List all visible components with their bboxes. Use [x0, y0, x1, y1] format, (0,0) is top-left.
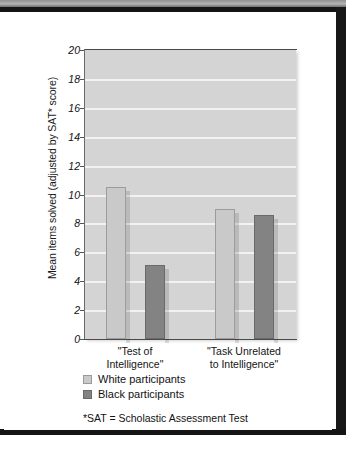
y-tick-mark — [80, 310, 84, 311]
legend-swatch-dark — [83, 390, 92, 399]
legend-item-2: Black participants — [83, 388, 185, 401]
x-label-group2: "Task Unrelated to Intelligence" — [174, 345, 314, 370]
bar-chart: Mean items solved (adjusted by SAT* scor… — [4, 12, 328, 430]
y-tick-label: 0 — [56, 333, 80, 345]
y-tick-label: 8 — [56, 217, 80, 229]
legend-label: Black participants — [98, 388, 184, 401]
bar-shadow — [165, 269, 169, 343]
scan-edge-right — [336, 7, 346, 431]
y-tick-mark — [80, 79, 84, 80]
y-tick-label: 16 — [56, 102, 80, 114]
y-tick-mark — [80, 281, 84, 282]
bar-face — [145, 265, 165, 339]
gridline — [85, 137, 296, 139]
y-tick-label: 18 — [56, 73, 80, 85]
bar-black-participants-group2 — [254, 215, 274, 339]
legend-swatch-light — [83, 375, 92, 384]
scan-edge-bottom-pad — [0, 435, 346, 449]
y-tick-mark — [80, 50, 84, 51]
bar-face — [106, 187, 126, 339]
scan-edge-top-gray — [0, 0, 346, 7]
y-axis-line — [84, 49, 85, 340]
y-tick-mark — [80, 252, 84, 253]
plot-top-border — [85, 49, 297, 50]
y-tick-label: 4 — [56, 275, 80, 287]
y-tick-label: 2 — [56, 304, 80, 316]
gridline — [85, 79, 296, 81]
bar-face — [254, 215, 274, 339]
y-tick-label: 6 — [56, 246, 80, 258]
y-tick-label: 12 — [56, 160, 80, 172]
gridline — [85, 108, 296, 110]
legend-item-1: White participants — [83, 373, 185, 386]
y-tick-mark — [80, 166, 84, 167]
y-tick-label: 10 — [56, 189, 80, 201]
y-tick-label: 20 — [56, 44, 80, 56]
y-tick-label: 14 — [56, 131, 80, 143]
bar-black-participants-group1 — [145, 265, 165, 339]
legend-label: White participants — [98, 373, 185, 386]
gridline — [85, 166, 296, 168]
figure-canvas: Mean items solved (adjusted by SAT* scor… — [4, 12, 332, 430]
y-tick-mark — [80, 137, 84, 138]
bar-shadow — [126, 191, 130, 343]
y-tick-mark — [80, 108, 84, 109]
footnote: *SAT = Scholastic Assessment Test — [83, 412, 248, 424]
y-tick-mark — [80, 195, 84, 196]
y-axis-title: Mean items solved (adjusted by SAT* scor… — [46, 48, 58, 308]
x-axis-line — [84, 339, 297, 340]
legend: White participantsBlack participants — [83, 373, 185, 403]
figure-page: Mean items solved (adjusted by SAT* scor… — [0, 0, 346, 449]
bar-shadow — [235, 213, 239, 343]
y-tick-mark — [80, 223, 84, 224]
bar-white-participants-group1 — [106, 187, 126, 339]
bar-shadow — [274, 219, 278, 343]
bar-white-participants-group2 — [215, 209, 235, 339]
y-tick-mark — [80, 339, 84, 340]
bar-face — [215, 209, 235, 339]
